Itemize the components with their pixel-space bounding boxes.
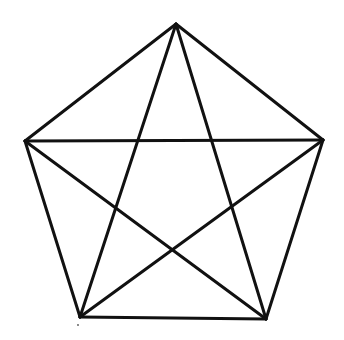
diagram-canvas [0, 0, 344, 340]
edge-bottom-left-left [25, 141, 80, 317]
diagonal-top-bottom-right [176, 24, 266, 319]
diagonal-right-bottom-left [80, 140, 323, 317]
diagonal-left-bottom-right [25, 141, 266, 319]
speck-mark [77, 324, 79, 326]
pentagram-star [25, 24, 323, 319]
edge-right-bottom-right [266, 140, 323, 319]
edge-left-top [25, 24, 176, 141]
pentagon-pentagram-figure [0, 0, 344, 340]
edge-top-right [176, 24, 323, 140]
diagonal-top-bottom-left [80, 24, 176, 317]
diagonal-left-right [25, 140, 323, 141]
edge-bottom-right-bottom-left [80, 317, 266, 319]
